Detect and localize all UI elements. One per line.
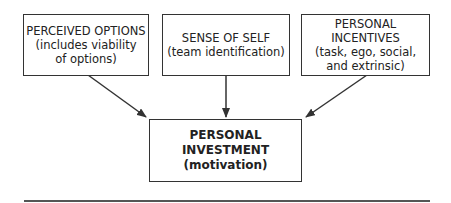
target-title: PERSONAL INVESTMENT — [150, 128, 301, 158]
box-line: of options) — [55, 52, 117, 66]
personal-incentives-box: PERSONAL INCENTIVES (task, ego, social, … — [301, 14, 430, 76]
target-subtitle: (motivation) — [183, 158, 267, 173]
box-line: (team identification) — [167, 45, 285, 59]
box-title: SENSE OF SELF — [182, 31, 270, 45]
arrow-perceived-to-investment — [88, 75, 146, 117]
sense-of-self-box: SENSE OF SELF (team identification) — [162, 14, 290, 76]
personal-investment-box: PERSONAL INVESTMENT (motivation) — [149, 119, 302, 182]
box-title: PERSONAL INCENTIVES — [302, 17, 429, 45]
perceived-options-box: PERCEIVED OPTIONS (includes viability of… — [23, 14, 149, 76]
box-line: (includes viability — [35, 38, 136, 52]
arrow-incentives-to-investment — [306, 75, 367, 117]
box-line: (task, ego, social, — [315, 45, 416, 59]
horizontal-rule — [24, 200, 430, 202]
box-line: and extrinsic) — [326, 59, 405, 73]
box-title: PERCEIVED OPTIONS — [26, 24, 145, 38]
